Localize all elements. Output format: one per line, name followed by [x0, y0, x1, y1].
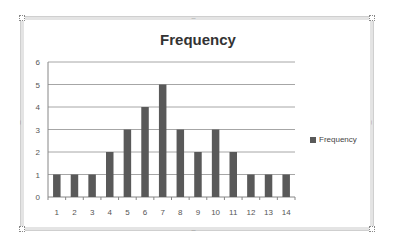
- x-tick-label: 8: [178, 208, 183, 217]
- x-tick-label: 3: [90, 208, 95, 217]
- x-tick-label: 12: [246, 208, 255, 217]
- y-tick-label: 1: [36, 171, 41, 180]
- x-tick-label: 7: [160, 208, 165, 217]
- x-tick-label: 2: [72, 208, 77, 217]
- x-tick-label: 1: [55, 208, 60, 217]
- bar[interactable]: [282, 175, 290, 198]
- legend[interactable]: Frequency: [310, 135, 357, 144]
- bar[interactable]: [88, 175, 96, 198]
- bar[interactable]: [71, 175, 79, 198]
- plot-area[interactable]: 01234561234567891011121314: [0, 0, 396, 247]
- bar[interactable]: [124, 130, 131, 198]
- bar[interactable]: [106, 152, 114, 197]
- bar[interactable]: [247, 175, 255, 198]
- x-tick-label: 9: [196, 208, 201, 217]
- x-tick-label: 13: [264, 208, 273, 217]
- legend-swatch: [310, 137, 316, 143]
- y-tick-label: 6: [36, 58, 41, 67]
- bar[interactable]: [212, 130, 220, 198]
- bar[interactable]: [265, 175, 273, 198]
- x-tick-label: 6: [143, 208, 148, 217]
- x-tick-label: 5: [125, 208, 130, 217]
- x-tick-label: 10: [211, 208, 220, 217]
- x-tick-label: 14: [282, 208, 291, 217]
- x-tick-label: 11: [229, 208, 238, 217]
- bar[interactable]: [177, 130, 185, 198]
- bar[interactable]: [230, 152, 238, 197]
- y-tick-label: 4: [36, 103, 41, 112]
- y-tick-label: 0: [36, 193, 41, 202]
- legend-label: Frequency: [319, 135, 357, 144]
- x-tick-label: 4: [108, 208, 113, 217]
- bar[interactable]: [141, 107, 149, 197]
- y-tick-label: 5: [36, 81, 41, 90]
- y-tick-label: 2: [36, 148, 41, 157]
- y-tick-label: 3: [36, 126, 41, 135]
- bar[interactable]: [159, 85, 167, 198]
- bar[interactable]: [194, 152, 202, 197]
- bar[interactable]: [53, 175, 61, 198]
